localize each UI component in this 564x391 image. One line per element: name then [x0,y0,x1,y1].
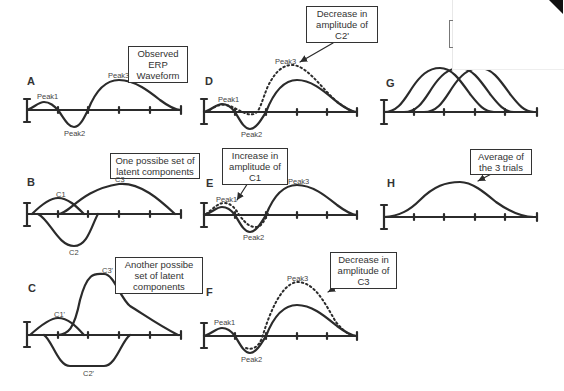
label-a-peak2: Peak2 [64,129,85,138]
panel-letter-c: C [28,282,36,294]
callout-c: Another possibe set of latent components [115,257,203,294]
panel-d-modified-waveform [210,65,357,114]
label-e-peak3: Peak3 [288,177,309,186]
panel-e-waveform [204,185,357,232]
label-b-c3: C3 [115,175,125,184]
panel-f-waveform [204,305,357,353]
component-c2 [38,214,98,246]
label-d-peak3: Peak3 [275,57,296,66]
panel-a-waveform [27,80,181,127]
label-f-peak3: Peak3 [287,274,308,283]
average-curve [384,182,534,217]
component-c3 [58,184,175,214]
label-b-c2: C2 [69,248,79,257]
label-a-peak3: Peak3 [108,71,129,80]
trial-2-curve [404,68,514,112]
label-f-peak1: Peak1 [214,318,235,327]
callout-d: Decrease in amplitude of C2' [306,6,378,43]
label-e-peak1: Peak1 [216,195,237,204]
panel-h-axis [381,205,537,229]
panel-f-modified-waveform [246,282,357,349]
panel-letter-a: A [27,75,35,87]
label-a-peak1: Peak1 [37,92,58,101]
label-d-peak2: Peak2 [241,130,262,139]
label-d-peak1: Peak1 [218,95,239,104]
panel-letter-h: H [387,177,395,189]
component-c2-prime [44,335,130,366]
panel-letter-f: F [206,286,213,298]
arrow-d [300,43,333,62]
label-c-c1: C1' [54,310,65,319]
label-b-c1: C1 [56,190,66,199]
label-c-c3: C3' [102,266,113,275]
label-f-peak2: Peak2 [241,355,262,364]
panel-letter-d: D [205,75,213,87]
corner-triangle [549,0,563,14]
callout-h: Average of the 3 trials [470,149,532,175]
callout-f: Decrease in amplitude of C3 [330,252,397,289]
panel-letter-b: B [27,176,35,188]
callout-e: Increase in amplitude of C1 [222,148,288,185]
bracket-artifact [449,20,453,48]
callout-a: Observed ERP Waveform [128,46,188,83]
label-e-peak2: Peak2 [243,233,264,242]
panel-c-axis [24,322,181,347]
panel-letter-e: E [206,177,213,189]
overlay-artifact [452,0,564,70]
label-c-c2: C2' [83,369,94,378]
panel-letter-g: G [386,77,395,89]
